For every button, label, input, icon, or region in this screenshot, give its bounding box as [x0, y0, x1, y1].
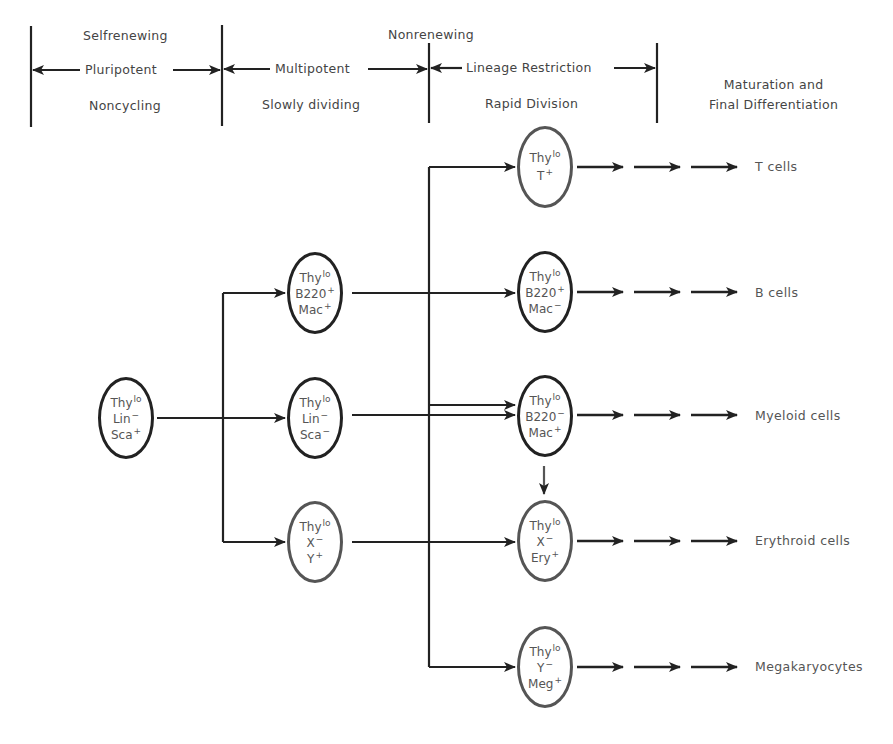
- fate-myeloid-cells: Myeloid cells: [755, 408, 841, 423]
- marker-level: −: [557, 408, 565, 418]
- marker-name: Thy: [529, 645, 551, 659]
- marker-name: B220: [295, 287, 326, 301]
- cell-restricted-megakaryocyte: Thylo Y− Meg+: [517, 626, 573, 708]
- marker-name: Thy: [529, 270, 551, 284]
- marker-level: +: [554, 424, 562, 434]
- marker-level: +: [554, 675, 562, 685]
- marker-level: lo: [553, 392, 561, 402]
- cell-stem: Thylo Lin− Sca+: [98, 377, 154, 459]
- marker-level: −: [323, 426, 331, 436]
- marker-name: Thy: [299, 520, 321, 534]
- marker-level: +: [327, 285, 335, 295]
- marker-name: Sca: [111, 428, 133, 442]
- marker-name: Ery: [531, 551, 551, 565]
- marker-level: −: [545, 659, 553, 669]
- marker-name: B220: [525, 410, 556, 424]
- marker-level: lo: [323, 518, 331, 528]
- marker-level: −: [554, 300, 562, 310]
- marker-level: lo: [553, 149, 561, 159]
- marker-level: lo: [553, 268, 561, 278]
- marker-name: X: [307, 536, 315, 550]
- cell-restricted-b: Thylo B220+ Mac−: [517, 251, 573, 333]
- fate-b-cells: B cells: [755, 285, 798, 300]
- marker-name: Y: [307, 552, 314, 566]
- marker-name: Thy: [529, 151, 551, 165]
- rapid-division-label: Rapid Division: [482, 96, 581, 111]
- cell-multipotent-b220-mac: Thylo B220+ Mac+: [287, 252, 343, 334]
- nonrenewing-label: Nonrenewing: [385, 27, 477, 42]
- marker-name: Thy: [110, 396, 132, 410]
- noncycling-label: Noncycling: [86, 98, 164, 113]
- multipotent-label: Multipotent: [272, 61, 353, 76]
- marker-name: Mac: [299, 303, 323, 317]
- cell-multipotent-x-y: Thylo X− Y+: [287, 501, 343, 583]
- marker-name: T: [537, 169, 544, 183]
- cell-restricted-myeloid: Thylo B220− Mac+: [517, 375, 573, 457]
- lineage-restriction-label: Lineage Restriction: [463, 60, 595, 75]
- marker-level: +: [324, 301, 332, 311]
- marker-level: lo: [553, 643, 561, 653]
- marker-name: Thy: [299, 396, 321, 410]
- marker-name: Meg: [528, 677, 553, 691]
- slowly-dividing-label: Slowly dividing: [259, 97, 363, 112]
- marker-name: B220: [525, 286, 556, 300]
- marker-name: X: [537, 535, 545, 549]
- fate-megakaryocytes: Megakaryocytes: [755, 659, 863, 674]
- marker-name: Lin: [302, 412, 320, 426]
- pluripotent-label: Pluripotent: [82, 62, 160, 77]
- cell-restricted-t: Thylo T+: [517, 126, 573, 208]
- marker-level: +: [552, 549, 560, 559]
- marker-level: lo: [323, 394, 331, 404]
- marker-level: +: [134, 426, 142, 436]
- marker-name: Lin: [113, 412, 131, 426]
- maturation-line1: Maturation and: [709, 75, 838, 95]
- marker-level: lo: [553, 517, 561, 527]
- marker-level: +: [557, 284, 565, 294]
- marker-name: Thy: [529, 394, 551, 408]
- marker-level: −: [321, 410, 329, 420]
- marker-level: −: [546, 533, 554, 543]
- maturation-label: Maturation and Final Differentiation: [706, 75, 841, 115]
- marker-name: Mac: [529, 426, 553, 440]
- marker-name: Thy: [299, 271, 321, 285]
- marker-name: Mac: [529, 302, 553, 316]
- fate-t-cells: T cells: [755, 159, 797, 174]
- cell-restricted-erythroid: Thylo X− Ery+: [517, 500, 573, 582]
- fate-erythroid-cells: Erythroid cells: [755, 533, 850, 548]
- marker-name: Y: [537, 661, 544, 675]
- cell-multipotent-lin-sca: Thylo Lin− Sca−: [287, 377, 343, 459]
- marker-level: −: [316, 534, 324, 544]
- marker-level: +: [545, 167, 553, 177]
- selfrenewing-label: Selfrenewing: [80, 28, 171, 43]
- marker-name: Thy: [529, 519, 551, 533]
- marker-level: +: [315, 550, 323, 560]
- marker-level: −: [132, 410, 140, 420]
- marker-level: lo: [134, 394, 142, 404]
- marker-name: Sca: [300, 428, 322, 442]
- marker-level: lo: [323, 269, 331, 279]
- maturation-line2: Final Differentiation: [709, 95, 838, 115]
